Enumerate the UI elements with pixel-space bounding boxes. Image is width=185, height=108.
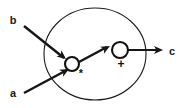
- node-add[interactable]: +: [112, 42, 128, 71]
- node-add-circle[interactable]: [112, 42, 128, 58]
- node-multiply-symbol: *: [79, 67, 84, 79]
- input-line-a: [24, 70, 67, 93]
- input-edge-a: [24, 66, 71, 93]
- internal-arrowhead-add: [100, 42, 112, 53]
- edge-multiply-to-add: [79, 42, 112, 62]
- diagram-canvas: * + b a c: [0, 0, 185, 108]
- input-label-b: b: [10, 14, 17, 26]
- dataflow-diagram: * + b a c: [0, 0, 185, 108]
- node-multiply-circle[interactable]: [65, 57, 79, 71]
- input-label-a: a: [10, 87, 17, 99]
- input-edge-b: [24, 26, 68, 62]
- output-label-c: c: [169, 45, 175, 57]
- internal-line-multiply-add: [79, 47, 107, 62]
- node-add-symbol: +: [117, 57, 124, 71]
